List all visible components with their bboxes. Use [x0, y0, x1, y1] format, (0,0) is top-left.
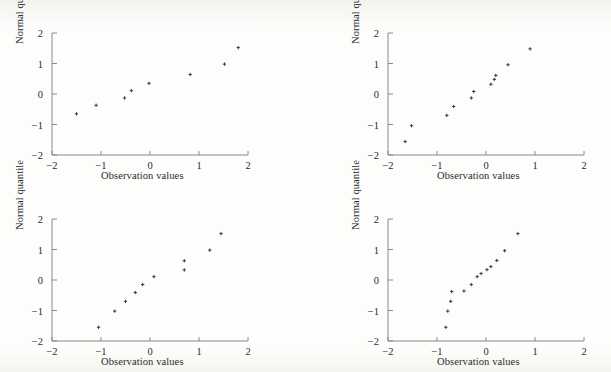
svg-text:2: 2 — [38, 214, 43, 225]
x-axis-label: Observation values — [101, 170, 184, 181]
qq-plot-canvas-4: −2−1012−2−1012 — [306, 186, 611, 372]
x-axis-label: Observation values — [101, 356, 184, 367]
svg-text:−2: −2 — [368, 336, 379, 347]
svg-text:2: 2 — [374, 28, 379, 39]
svg-text:−2: −2 — [46, 160, 57, 171]
svg-text:−1: −1 — [368, 306, 379, 317]
svg-text:1: 1 — [38, 245, 43, 256]
svg-text:0: 0 — [374, 275, 379, 286]
svg-text:1: 1 — [374, 59, 379, 70]
qq-panel-3: Normal quantile −2−1012−2−1012 Observati… — [0, 186, 306, 372]
svg-text:1: 1 — [532, 346, 537, 357]
svg-text:2: 2 — [245, 346, 250, 357]
svg-text:2: 2 — [38, 28, 43, 39]
qq-panel-1: Normal quantile −2−1012−2−1012 Observati… — [0, 0, 306, 186]
svg-text:0: 0 — [38, 275, 43, 286]
qq-plot-canvas-1: −2−1012−2−1012 — [0, 0, 306, 186]
qq-plot-canvas-3: −2−1012−2−1012 — [0, 186, 306, 372]
x-axis-label: Observation values — [437, 170, 520, 181]
svg-text:−2: −2 — [382, 160, 393, 171]
qq-panel-4: Normal quantile −2−1012−2−1012 Observati… — [306, 186, 611, 372]
svg-text:−1: −1 — [32, 306, 43, 317]
svg-text:−2: −2 — [368, 150, 379, 161]
svg-text:−1: −1 — [32, 120, 43, 131]
svg-text:1: 1 — [196, 160, 201, 171]
svg-text:−1: −1 — [368, 120, 379, 131]
svg-text:−2: −2 — [32, 336, 43, 347]
x-axis-label: Observation values — [437, 356, 520, 367]
svg-text:1: 1 — [532, 160, 537, 171]
qq-plot-grid: Normal quantile −2−1012−2−1012 Observati… — [0, 0, 611, 372]
svg-text:1: 1 — [374, 245, 379, 256]
svg-text:−2: −2 — [32, 150, 43, 161]
svg-text:2: 2 — [581, 160, 586, 171]
svg-text:2: 2 — [581, 346, 586, 357]
svg-text:0: 0 — [374, 89, 379, 100]
svg-text:2: 2 — [245, 160, 250, 171]
svg-text:0: 0 — [38, 89, 43, 100]
svg-text:2: 2 — [374, 214, 379, 225]
svg-text:1: 1 — [196, 346, 201, 357]
svg-text:−2: −2 — [382, 346, 393, 357]
svg-text:−2: −2 — [46, 346, 57, 357]
svg-text:1: 1 — [38, 59, 43, 70]
